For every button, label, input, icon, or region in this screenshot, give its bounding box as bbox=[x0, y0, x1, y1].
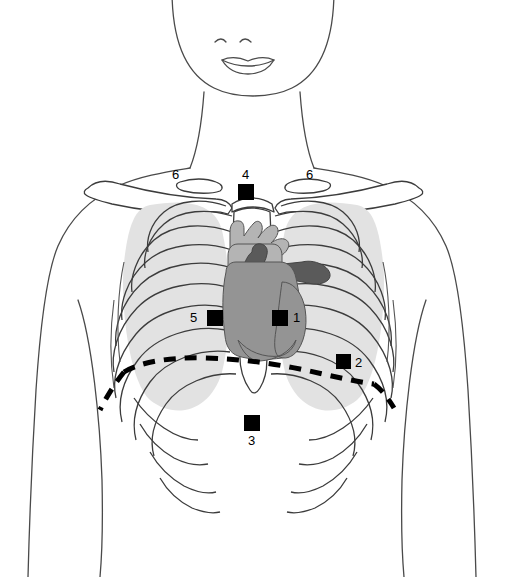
electrode-label-2: 2 bbox=[355, 356, 362, 369]
electrode-square-4[interactable] bbox=[238, 184, 254, 200]
neck-outline bbox=[190, 92, 314, 168]
anatomy-illustration: .ln { fill: none; stroke: #4a4a4a; strok… bbox=[0, 0, 507, 577]
electrode-label-4: 4 bbox=[242, 168, 249, 181]
electrode-square-3[interactable] bbox=[244, 415, 260, 431]
head-outline bbox=[172, 0, 334, 96]
electrode-label-6-right: 6 bbox=[306, 168, 313, 181]
electrode-square-2[interactable] bbox=[336, 354, 351, 369]
chest-anatomy-diagram: .ln { fill: none; stroke: #4a4a4a; strok… bbox=[0, 0, 507, 577]
electrode-label-1: 1 bbox=[293, 311, 300, 324]
electrode-label-6-left: 6 bbox=[172, 168, 179, 181]
electrode-label-3: 3 bbox=[248, 434, 255, 447]
electrode-label-5: 5 bbox=[190, 311, 197, 324]
electrode-square-1[interactable] bbox=[272, 310, 288, 326]
electrode-square-5[interactable] bbox=[207, 310, 223, 326]
